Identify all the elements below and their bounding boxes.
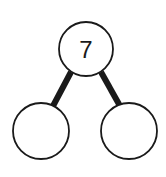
connector-left xyxy=(53,72,71,106)
whole-node: 7 xyxy=(59,22,113,76)
part-circle-right[interactable] xyxy=(101,103,157,159)
part-node-left[interactable] xyxy=(13,103,69,159)
connectors xyxy=(53,72,120,106)
part-node-right[interactable] xyxy=(101,103,157,159)
part-circle-left[interactable] xyxy=(13,103,69,159)
whole-value: 7 xyxy=(79,36,92,63)
connector-right xyxy=(101,72,120,106)
number-bond-diagram: 7 xyxy=(0,0,166,177)
